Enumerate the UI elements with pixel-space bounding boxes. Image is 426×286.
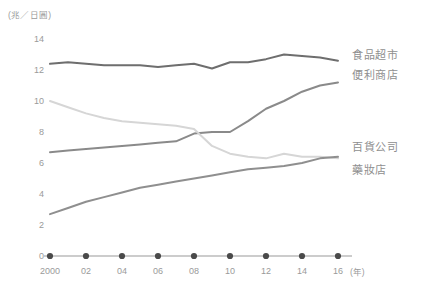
- x-axis-tick-marker: [191, 253, 197, 259]
- series-line-2: [50, 82, 338, 152]
- series-line-3: [50, 101, 338, 158]
- line-chart: (兆／日圓) 0246810121420000204060810121416(年…: [0, 0, 426, 286]
- x-axis-tick-label: 2000: [30, 267, 70, 276]
- x-axis-tick-marker: [263, 253, 269, 259]
- x-axis-tick-label: 04: [102, 267, 142, 276]
- x-axis-unit-label: (年): [350, 268, 365, 277]
- x-axis-tick-marker: [47, 253, 53, 259]
- y-axis-tick-label: 10: [18, 97, 44, 106]
- y-axis-tick-label: 12: [18, 66, 44, 75]
- x-axis-tick-marker: [335, 253, 341, 259]
- series-label-2: 便利商店: [352, 70, 398, 81]
- y-axis-tick-label: 2: [18, 221, 44, 230]
- x-axis-tick-marker: [119, 253, 125, 259]
- x-axis-tick-marker: [299, 253, 305, 259]
- x-axis-tick-marker: [83, 253, 89, 259]
- series-line-1: [50, 55, 338, 69]
- x-axis-tick-marker: [155, 253, 161, 259]
- y-axis-tick-label: 0: [18, 252, 44, 261]
- series-line-4: [50, 157, 338, 214]
- x-axis-tick-label: 14: [282, 267, 322, 276]
- series-label-4: 藥妝店: [352, 165, 387, 176]
- y-axis-tick-label: 8: [18, 128, 44, 137]
- x-axis-tick-label: 10: [210, 267, 250, 276]
- series-label-3: 百貨公司: [352, 142, 398, 153]
- x-axis-tick-label: 12: [246, 267, 286, 276]
- x-axis-tick-label: 06: [138, 267, 178, 276]
- x-axis-tick-label: 08: [174, 267, 214, 276]
- y-axis-tick-label: 4: [18, 190, 44, 199]
- y-axis-tick-label: 6: [18, 159, 44, 168]
- x-axis-tick-marker: [227, 253, 233, 259]
- series-label-1: 食品超市: [352, 50, 398, 61]
- x-axis-tick-label: 02: [66, 267, 106, 276]
- y-axis-tick-label: 14: [18, 35, 44, 44]
